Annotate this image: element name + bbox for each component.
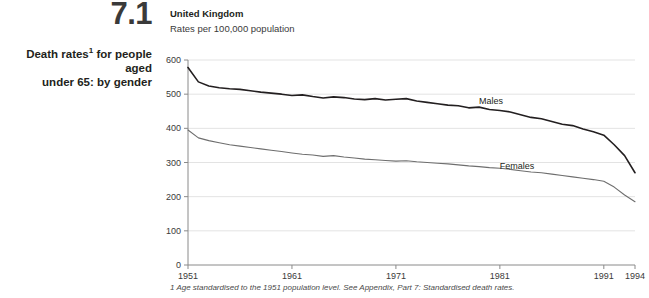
line-chart-svg: 0100200300400500600 19511961197119811991… <box>0 0 649 298</box>
y-tick-label: 600 <box>166 55 181 65</box>
y-tick-label: 100 <box>166 226 181 236</box>
y-tick-label: 500 <box>166 89 181 99</box>
y-tick-label: 0 <box>176 260 181 270</box>
figure-page: 7.1 Death rates1 for people aged under 6… <box>0 0 649 298</box>
chart-plot-area: 0100200300400500600 19511961197119811991… <box>0 0 649 298</box>
y-tick-label: 200 <box>166 192 181 202</box>
x-tick-label: 1951 <box>178 271 198 281</box>
series-label-males: Males <box>479 96 504 106</box>
x-tick-label: 1991 <box>594 271 614 281</box>
y-tick-label: 400 <box>166 123 181 133</box>
y-tick-label: 300 <box>166 158 181 168</box>
x-tick-label: 1961 <box>282 271 302 281</box>
chart-series-group <box>188 68 635 202</box>
series-label-females: Females <box>500 161 535 171</box>
series-line-males <box>188 68 635 173</box>
x-tick-label: 1981 <box>490 271 510 281</box>
chart-y-axis: 0100200300400500600 <box>166 55 188 270</box>
x-tick-label: 1971 <box>386 271 406 281</box>
series-line-females <box>188 130 635 202</box>
chart-x-axis: 195119611971198119911994 <box>178 265 645 281</box>
figure-footnote: 1 Age standardised to the 1951 populatio… <box>170 283 515 293</box>
chart-series-labels: MalesFemales <box>479 96 535 171</box>
x-tick-label: 1994 <box>625 271 645 281</box>
